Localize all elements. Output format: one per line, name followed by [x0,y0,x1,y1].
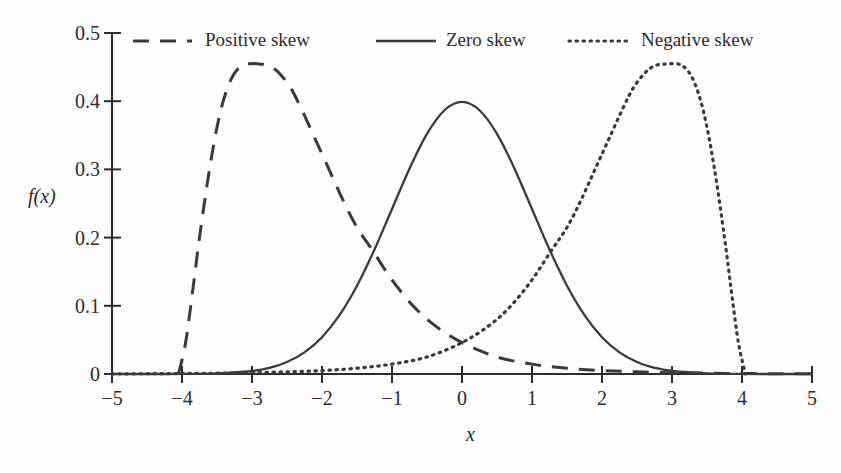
x-tick-label-5: 0 [446,388,478,408]
legend-label-positive-skew: Positive skew [205,30,310,49]
y-tick-label-3: 0.3 [40,159,100,179]
y-axis-title: f(x) [28,186,56,206]
x-tick-label-7: 2 [586,388,618,408]
x-tick-label-9: 4 [726,388,758,408]
x-tick-label-4: −1 [376,388,408,408]
legend-label-zero-skew: Zero skew [446,30,526,49]
y-tick-label-1: 0.1 [40,296,100,316]
legend-label-negative-skew: Negative skew [641,30,753,49]
series-line-zero-skew [112,102,812,374]
x-tick-label-0: −5 [96,388,128,408]
y-tick-label-0: 0 [40,364,100,384]
x-tick-label-10: 5 [796,388,828,408]
x-tick-label-6: 1 [516,388,548,408]
x-tick-label-3: −2 [306,388,338,408]
x-axis-title: x [466,424,475,444]
series-line-negative-skew [112,64,746,374]
x-tick-label-8: 3 [656,388,688,408]
y-tick-label-5: 0.5 [40,23,100,43]
chart-figure: −5−4−3−2−1012345 00.10.20.30.40.5 x f(x)… [0,0,841,473]
chart-series-group [112,64,812,374]
y-tick-label-2: 0.2 [40,228,100,248]
axis-lines [112,33,812,374]
x-tick-label-1: −4 [166,388,198,408]
series-line-positive-skew [179,64,813,374]
x-tick-label-2: −3 [236,388,268,408]
y-tick-label-4: 0.4 [40,91,100,111]
